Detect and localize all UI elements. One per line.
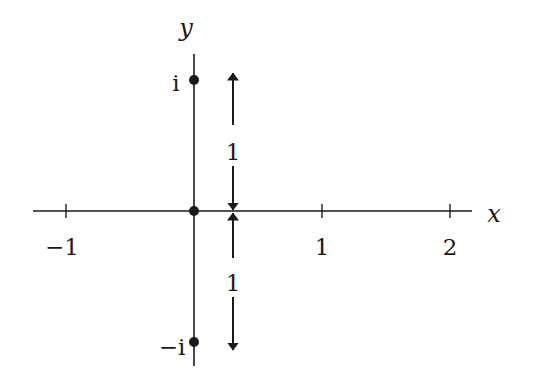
y-axis-label: y <box>178 14 193 42</box>
lower-distance-label: 1 <box>226 270 241 296</box>
point-label-minus-i: −i <box>159 334 186 360</box>
x-tick-label-2: 2 <box>443 234 458 260</box>
point-i <box>189 75 199 85</box>
x-tick-label-minus-1: −1 <box>45 234 79 260</box>
x-tick-label-1: 1 <box>315 234 330 260</box>
complex-plane-diagram: y x −1 1 2 i −i 1 1 <box>0 0 535 381</box>
upper-distance-label: 1 <box>226 139 241 165</box>
point-minus-i <box>189 337 199 347</box>
point-origin <box>189 206 199 216</box>
x-axis-label: x <box>487 200 501 228</box>
point-label-i: i <box>172 70 179 96</box>
